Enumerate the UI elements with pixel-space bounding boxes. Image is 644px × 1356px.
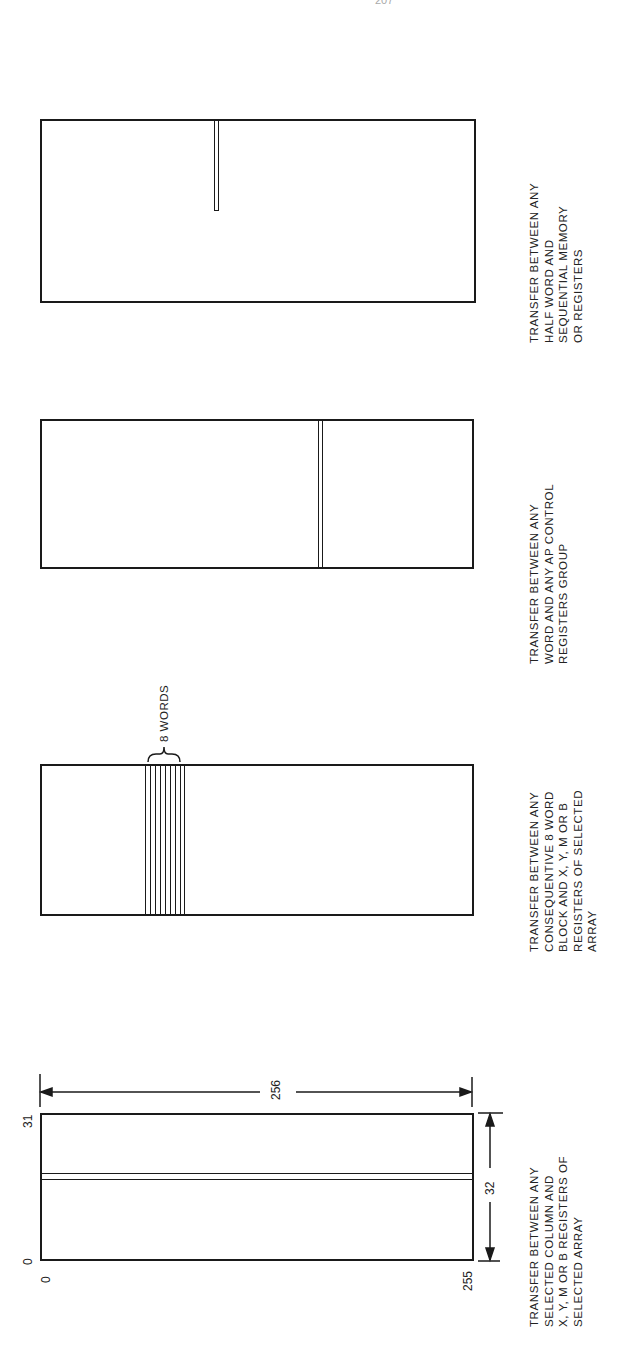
caption-line: X, Y, M OR B REGISTERS OF xyxy=(556,1156,571,1327)
caption-line: TRANSFER BETWEEN ANY xyxy=(527,1156,542,1327)
caption-line: SELECTED COLUMN AND xyxy=(542,1156,557,1327)
caption-line: SELECTED ARRAY xyxy=(571,1156,586,1327)
arrow-down-icon xyxy=(486,1248,494,1260)
arrow-left-icon xyxy=(41,1088,52,1096)
height-dimension-label: 32 xyxy=(483,1182,497,1195)
dimension-lines xyxy=(0,0,644,1356)
row-31-label: 31 xyxy=(21,1115,35,1128)
width-dimension-label: 256 xyxy=(269,1080,283,1100)
arrow-right-icon xyxy=(460,1088,471,1096)
arrow-up-icon xyxy=(486,1114,494,1126)
row-0-label: 0 xyxy=(21,1258,35,1265)
col-0-label: 0 xyxy=(39,1276,53,1283)
caption-column: TRANSFER BETWEEN ANY SELECTED COLUMN AND… xyxy=(527,1156,585,1327)
col-255-label: 255 xyxy=(461,1271,475,1291)
